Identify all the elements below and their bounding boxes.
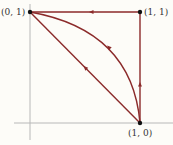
curved-path-arrow xyxy=(109,47,110,48)
label-point-0-1: (0, 1) xyxy=(1,8,25,17)
diagonal-path-arrow xyxy=(85,68,86,69)
label-point-1-0: (1, 0) xyxy=(128,129,152,138)
point-0-1 xyxy=(28,10,32,14)
label-point-1-1: (1, 1) xyxy=(144,8,168,17)
point-1-0 xyxy=(138,121,142,125)
point-1-1 xyxy=(138,10,142,14)
path-diagram xyxy=(0,0,173,145)
